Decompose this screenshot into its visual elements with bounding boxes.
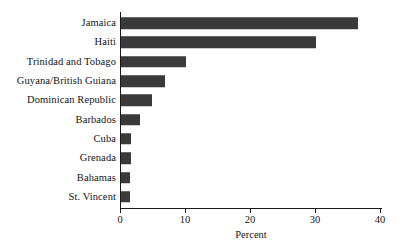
bar-bahamas [121, 172, 130, 184]
x-axis-tick-label: 40 [365, 213, 395, 226]
bar-trinidad-and-tobago [121, 56, 186, 68]
bar-barbados [121, 114, 140, 126]
bar-jamaica [121, 17, 358, 29]
bar-grenada [121, 153, 131, 165]
x-axis-tick-label: 20 [235, 213, 265, 226]
plot-area: Jamaica Haiti Trinidad and Tobago Guyana… [0, 0, 405, 210]
category-label: Haiti [0, 36, 116, 48]
bar-dominican-republic [121, 95, 152, 107]
category-label: Jamaica [0, 17, 116, 29]
bar-row: Dominican Republic [0, 91, 405, 109]
bar-haiti [121, 37, 316, 49]
category-label: Barbados [0, 114, 116, 126]
bar-row: Grenada [0, 149, 405, 167]
x-axis-tick-label: 10 [170, 213, 200, 226]
category-label: Bahamas [0, 172, 116, 184]
bar-row: Cuba [0, 130, 405, 148]
bar-row: Guyana/British Guiana [0, 72, 405, 90]
category-label: Trinidad and Tobago [0, 56, 116, 68]
bar-row: St. Vincent [0, 188, 405, 206]
category-label: Dominican Republic [0, 94, 116, 106]
y-axis-line [120, 12, 121, 208]
bar-guyana-british-guiana [121, 75, 165, 87]
bar-row: Bahamas [0, 168, 405, 186]
category-label: Guyana/British Guiana [0, 75, 116, 87]
bar-row: Jamaica [0, 14, 405, 32]
bar-row: Barbados [0, 111, 405, 129]
x-axis-tick-label: 30 [300, 213, 330, 226]
bar-st-vincent [121, 191, 130, 203]
category-label: St. Vincent [0, 191, 116, 203]
x-axis-title: Percent [120, 228, 382, 241]
bar-cuba [121, 133, 131, 145]
bar-row: Trinidad and Tobago [0, 53, 405, 71]
horizontal-bar-chart: Jamaica Haiti Trinidad and Tobago Guyana… [0, 0, 405, 247]
bar-row: Haiti [0, 33, 405, 51]
category-label: Cuba [0, 133, 116, 145]
x-axis-tick-label: 0 [105, 213, 135, 226]
category-label: Grenada [0, 152, 116, 164]
